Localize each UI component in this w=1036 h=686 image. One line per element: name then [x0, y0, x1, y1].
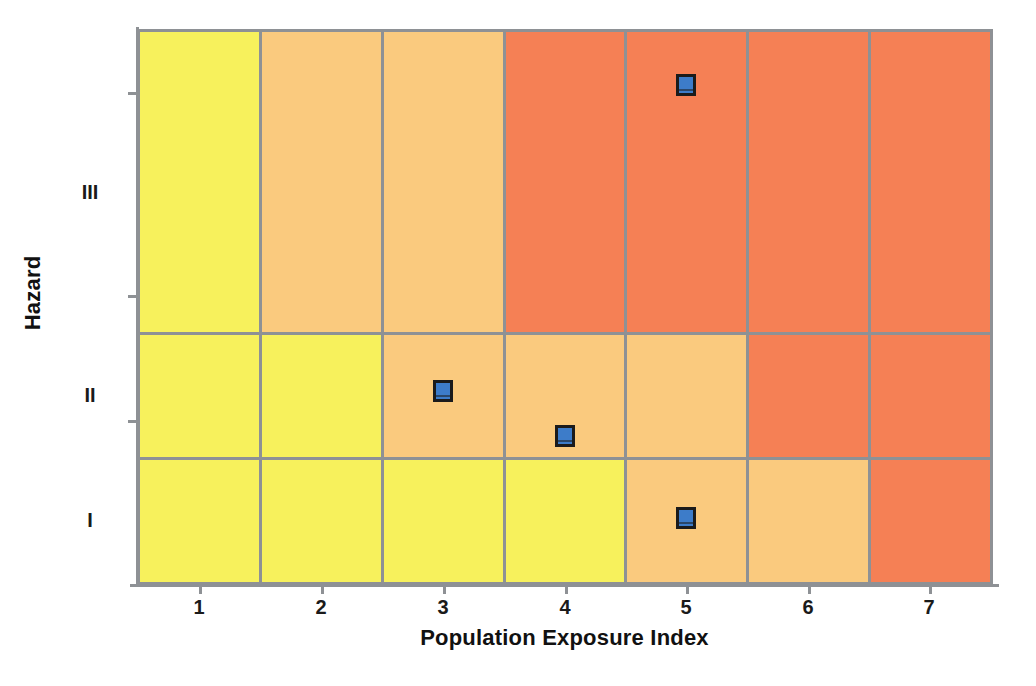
- matrix-cell-I-2: [260, 458, 382, 585]
- data-point-marker: [555, 425, 575, 447]
- y-axis-tick: [128, 420, 139, 423]
- y-axis-tick: [128, 92, 139, 95]
- matrix-cell-I-7: [869, 458, 991, 585]
- x-axis-tick: [443, 584, 446, 594]
- matrix-cell-III-6: [747, 29, 869, 333]
- matrix-cell-I-4: [504, 458, 626, 585]
- matrix-cell-III-7: [869, 29, 991, 333]
- plot-area: [138, 29, 991, 585]
- x-axis-tick: [686, 584, 689, 594]
- x-tick-label-6: 6: [778, 596, 838, 619]
- risk-matrix-grid: [138, 29, 991, 585]
- x-axis-tick: [321, 584, 324, 594]
- y-axis-title: Hazard: [20, 213, 46, 373]
- y-axis-tick: [128, 295, 139, 298]
- matrix-cell-I-1: [138, 458, 260, 585]
- x-tick-label-5: 5: [656, 596, 716, 619]
- matrix-cell-II-6: [747, 333, 869, 458]
- y-tick-label-III: III: [60, 181, 120, 204]
- risk-matrix-figure: 1234567IIIIII Population Exposure Index …: [0, 0, 1036, 686]
- y-tick-label-II: II: [60, 384, 120, 407]
- matrix-cell-II-7: [869, 333, 991, 458]
- matrix-cell-II-5: [625, 333, 747, 458]
- matrix-cell-III-1: [138, 29, 260, 333]
- matrix-cell-II-1: [138, 333, 260, 458]
- x-axis-tick: [929, 584, 932, 594]
- matrix-cell-III-3: [382, 29, 504, 333]
- matrix-cell-III-2: [260, 29, 382, 333]
- x-tick-label-3: 3: [413, 596, 473, 619]
- x-axis-tick: [565, 584, 568, 594]
- y-axis-line: [136, 27, 139, 587]
- x-tick-label-7: 7: [899, 596, 959, 619]
- matrix-cell-II-2: [260, 333, 382, 458]
- x-axis-title: Population Exposure Index: [138, 625, 991, 651]
- y-tick-label-I: I: [60, 509, 120, 532]
- matrix-cell-I-3: [382, 458, 504, 585]
- x-axis-tick: [808, 584, 811, 594]
- x-tick-label-1: 1: [169, 596, 229, 619]
- x-axis-tick: [199, 584, 202, 594]
- data-point-marker: [676, 74, 696, 96]
- matrix-cell-III-4: [504, 29, 626, 333]
- matrix-cell-I-6: [747, 458, 869, 585]
- data-point-marker: [433, 380, 453, 402]
- data-point-marker: [676, 507, 696, 529]
- x-tick-label-4: 4: [535, 596, 595, 619]
- x-tick-label-2: 2: [291, 596, 351, 619]
